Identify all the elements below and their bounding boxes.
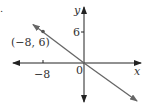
y-tick-label-6: 6 [73, 26, 80, 39]
x-tick-label-neg8: −8 [34, 68, 50, 81]
point-marker [41, 30, 45, 34]
y-axis-label: y [73, 4, 81, 17]
coordinate-graph: . (−8, 6) y x 6 −8 0 [0, 0, 146, 112]
x-axis-label: x [134, 65, 141, 78]
origin-label: 0 [76, 64, 83, 77]
point-label: (−8, 6) [11, 36, 50, 49]
corner-mark: . [0, 3, 3, 14]
